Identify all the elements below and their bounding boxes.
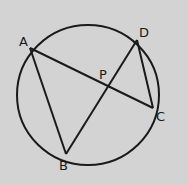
point-label-d: D	[139, 25, 149, 40]
circle-chord-diagram: A B C D P	[0, 0, 188, 185]
point-label-a: A	[19, 34, 28, 49]
point-label-p: P	[99, 67, 107, 82]
diagram-canvas: A B C D P	[0, 0, 188, 185]
point-label-b: B	[59, 158, 68, 173]
point-label-c: C	[156, 109, 165, 124]
chord-bd	[66, 40, 137, 154]
chord-ac	[30, 48, 153, 108]
chord-dc	[137, 40, 153, 108]
